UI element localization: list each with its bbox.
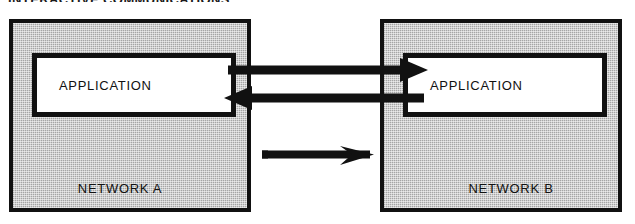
application-label-b: APPLICATION — [408, 78, 523, 93]
application-label-a: APPLICATION — [37, 78, 152, 93]
application-box-b: APPLICATION — [403, 53, 607, 117]
network-label-b: NETWORK B — [394, 181, 628, 196]
network-panel-b: APPLICATION NETWORK B — [380, 19, 622, 212]
network-panel-a: APPLICATION NETWORK A — [9, 19, 251, 212]
application-box-a: APPLICATION — [32, 53, 236, 117]
figure-container: INTERACTIVE COMMUNICATIONS APPLICATION N… — [0, 0, 635, 224]
diagram-body: APPLICATION NETWORK A APPLICATION NETWOR… — [9, 19, 622, 214]
network-label-a: NETWORK A — [3, 181, 237, 196]
figure-title: INTERACTIVE COMMUNICATIONS — [8, 0, 230, 2]
